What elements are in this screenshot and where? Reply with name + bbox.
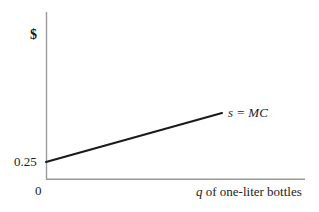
supply-curve-line xyxy=(46,113,222,162)
chart-canvas xyxy=(0,0,319,212)
supply-curve-figure: $ 0.25 0 q of one-liter bottles s = MC xyxy=(0,0,319,212)
supply-curve-label: s = MC xyxy=(228,106,268,119)
y-axis-title: $ xyxy=(30,28,37,42)
y-intercept-tick-label: 0.25 xyxy=(14,155,37,168)
x-axis-title-text: of one-liter bottles xyxy=(203,184,302,199)
x-axis-title: q of one-liter bottles xyxy=(196,185,302,198)
origin-tick-label: 0 xyxy=(35,184,42,197)
